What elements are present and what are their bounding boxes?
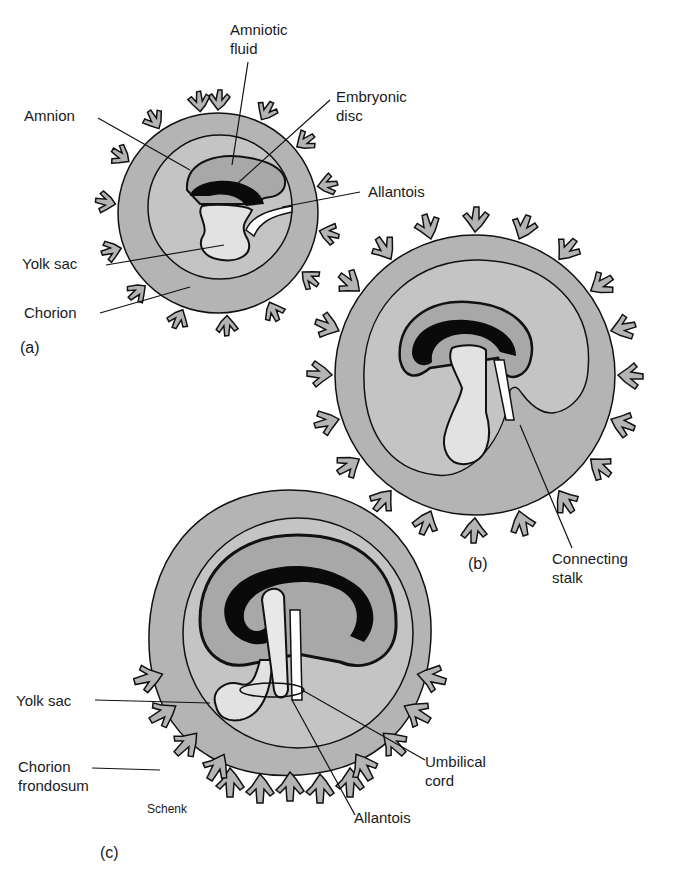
label-embryonic-disc-line2: disc [336, 106, 407, 125]
label-amniotic-fluid-line1: Amniotic [230, 20, 288, 39]
label-chorion-frondosum-line1: Chorion [18, 757, 89, 776]
label-embryonic-disc: Embryonic disc [336, 87, 407, 125]
label-amniotic-fluid-line2: fluid [230, 39, 288, 58]
label-chorion-frondosum-line2: frondosum [18, 776, 89, 795]
label-chorion-frondosum: Chorion frondosum [18, 757, 89, 795]
label-connecting-stalk-line2: stalk [552, 568, 628, 587]
panel-a-figure [95, 90, 341, 337]
label-yolk-sac-a: Yolk sac [22, 254, 77, 273]
artist-signature: Schenk [147, 800, 187, 819]
panel-c-figure [131, 490, 449, 803]
embryo-diagram [0, 0, 675, 875]
label-embryonic-disc-line1: Embryonic [336, 87, 407, 106]
label-allantois-c: Allantois [354, 808, 411, 827]
panel-label-c: (c) [100, 843, 119, 862]
panel-b-figure [307, 207, 643, 543]
label-amnion: Amnion [24, 106, 75, 125]
label-chorion: Chorion [24, 303, 77, 322]
label-umbilical-cord-line2: cord [425, 771, 486, 790]
label-connecting-stalk: Connecting stalk [552, 549, 628, 587]
label-umbilical-cord-line1: Umbilical [425, 752, 486, 771]
label-connecting-stalk-line1: Connecting [552, 549, 628, 568]
label-allantois-a: Allantois [368, 182, 425, 201]
label-umbilical-cord: Umbilical cord [425, 752, 486, 790]
panel-label-a: (a) [20, 338, 40, 357]
label-yolk-sac-c: Yolk sac [16, 691, 71, 710]
panel-label-b: (b) [468, 554, 488, 573]
label-amniotic-fluid: Amniotic fluid [230, 20, 288, 58]
